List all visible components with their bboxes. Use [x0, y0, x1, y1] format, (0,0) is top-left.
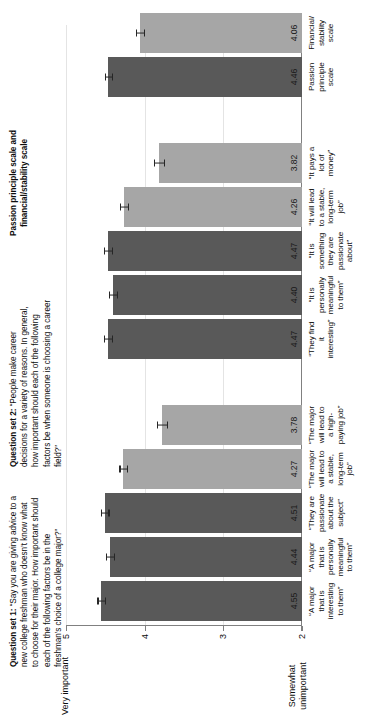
bar[interactable]: 4.46	[108, 57, 302, 97]
error-bar	[136, 32, 144, 33]
error-bar-cap	[136, 30, 137, 37]
bar-group[interactable]: 4.51“They arepassionateabout thesubject”	[66, 493, 302, 533]
bar-group[interactable]: 3.82“It pays alot ofmoney”	[66, 143, 302, 183]
y-tick-mark	[145, 626, 146, 631]
error-bar	[101, 512, 109, 513]
y-tick-label: 3	[218, 634, 228, 639]
error-bar-cap	[112, 74, 113, 81]
bar[interactable]: 4.27	[123, 449, 302, 489]
y-tick-label: 5	[61, 634, 71, 639]
bar-value-label: 4.55	[289, 581, 299, 621]
bar[interactable]: 4.44	[110, 537, 302, 577]
y-tick-mark	[223, 626, 224, 631]
bar[interactable]: 4.55	[101, 581, 302, 621]
question-set-2-note: Question set 2: “People make career deci…	[8, 299, 64, 467]
error-bar-cap	[117, 292, 118, 299]
y-tick-mark	[66, 626, 67, 631]
bar-value-label: 3.82	[289, 143, 299, 183]
plot-area: Very important Somewhat unimportant 5432…	[66, 25, 302, 625]
error-bar-cap	[144, 30, 145, 37]
error-bar-cap	[105, 598, 106, 605]
error-bar-cap	[112, 248, 113, 255]
error-bar-cap	[106, 554, 107, 561]
error-bar-cap	[101, 510, 102, 517]
bar-value-label: 4.27	[289, 449, 299, 489]
bar-group[interactable]: 3.78“The majorwill lead toa high-paying …	[66, 405, 302, 445]
error-bar-cap	[127, 466, 128, 473]
bar-group[interactable]: 4.46Passionprinciplescale	[66, 57, 302, 97]
bar[interactable]: 4.26	[124, 187, 302, 227]
question-set-1-label: Question set 1:	[9, 609, 18, 667]
category-label: “The majorwill lead toa high-paying job”	[307, 398, 345, 452]
bar-group[interactable]: 4.47“They finditinteresting”	[66, 319, 302, 359]
bar-value-label: 4.47	[289, 231, 299, 271]
error-bar	[106, 556, 114, 557]
category-label: “It pays alot ofmoney”	[307, 136, 336, 190]
error-bar-cap	[120, 204, 121, 211]
error-bar-cap	[119, 466, 120, 473]
bar[interactable]: 4.47	[108, 319, 302, 359]
bar-value-label: 4.40	[289, 275, 299, 315]
question-set-1-note: Question set 1: “Say you are giving advi…	[8, 495, 64, 667]
error-bar	[97, 600, 105, 601]
error-bar-cap	[114, 554, 115, 561]
bar-value-label: 4.44	[289, 537, 299, 577]
error-bar-cap	[108, 510, 109, 517]
y-tick-label: 2	[297, 634, 307, 639]
axis-label-very-important: Very important	[60, 649, 71, 719]
bar-value-label: 4.47	[289, 319, 299, 359]
bar[interactable]: 3.78	[162, 405, 302, 445]
bar-value-label: 4.51	[289, 493, 299, 533]
bar-group[interactable]: 4.26“It will leadto a stable,long-termjo…	[66, 187, 302, 227]
bar-group[interactable]: 4.06Financial/stabilityscale	[66, 13, 302, 53]
bar-value-label: 4.06	[289, 13, 299, 53]
error-bar	[119, 468, 127, 469]
error-bar-cap	[164, 160, 165, 167]
category-label: Financial/stabilityscale	[307, 6, 336, 60]
question-set-2-label: Question set 2:	[9, 409, 18, 467]
bar-value-label: 3.78	[289, 405, 299, 445]
axis-label-somewhat-unimportant: Somewhat unimportant	[287, 649, 308, 719]
error-bar	[109, 294, 117, 295]
error-bar	[157, 424, 166, 425]
y-tick-mark	[302, 626, 303, 631]
error-bar-cap	[97, 598, 98, 605]
error-bar	[154, 162, 163, 163]
error-bar-cap	[105, 74, 106, 81]
bar-value-label: 4.46	[289, 57, 299, 97]
bar[interactable]: 4.06	[140, 13, 302, 53]
bar[interactable]: 4.47	[108, 231, 302, 271]
error-bar	[120, 206, 128, 207]
error-bar-cap	[157, 422, 158, 429]
bar-value-label: 4.26	[289, 187, 299, 227]
error-bar-cap	[104, 248, 105, 255]
bar[interactable]: 4.51	[105, 493, 302, 533]
error-bar	[104, 250, 112, 251]
error-bar-cap	[154, 160, 155, 167]
error-bar-cap	[109, 292, 110, 299]
error-bar-cap	[167, 422, 168, 429]
error-bar-cap	[128, 204, 129, 211]
scale-header-note: Passion principle scale and financial/st…	[8, 103, 30, 263]
bar-group[interactable]: 4.47“It issomethingthey arepassionateabo…	[66, 231, 302, 271]
bar-group[interactable]: 4.55“A majorthat isinterestingto them”	[66, 581, 302, 621]
bar-group[interactable]: 4.27“The majorwill lead toa stable,long-…	[66, 449, 302, 489]
y-axis-line	[66, 625, 302, 626]
y-tick-label: 4	[140, 634, 150, 639]
bar[interactable]: 3.82	[159, 143, 302, 183]
error-bar-cap	[112, 336, 113, 343]
error-bar-cap	[104, 336, 105, 343]
bar-group[interactable]: 4.40“It ispersonallymeaningfulto them”	[66, 275, 302, 315]
error-bar	[104, 338, 112, 339]
bar[interactable]: 4.40	[113, 275, 302, 315]
bar-group[interactable]: 4.44“A majorthat ispersonallymeaningfult…	[66, 537, 302, 577]
